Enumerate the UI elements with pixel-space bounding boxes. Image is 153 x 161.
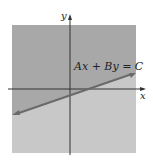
y-axis-label: y [60, 10, 67, 21]
linear-equation-diagram: Ax + By = C x y [0, 0, 153, 161]
x-axis-label: x [140, 90, 146, 101]
equation-label: Ax + By = C [73, 60, 144, 73]
y-axis-arrow-icon [68, 14, 72, 20]
